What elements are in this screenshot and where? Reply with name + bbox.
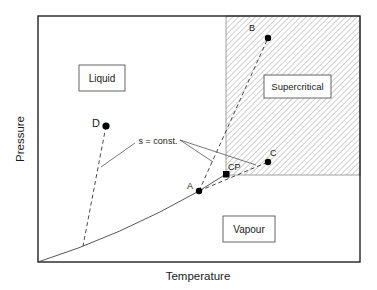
- point-A-marker: [196, 188, 202, 194]
- y-axis-label: Pressure: [14, 116, 26, 162]
- liquid-label: Liquid: [89, 73, 116, 84]
- supercritical-label-box: Supercritical: [264, 75, 331, 98]
- point-A-label: A: [187, 181, 193, 191]
- x-axis-label: Temperature: [166, 270, 231, 282]
- point-C-label: C: [270, 148, 277, 158]
- point-C-marker: [265, 159, 271, 165]
- supercritical-label: Supercritical: [271, 81, 323, 92]
- vapour-pressure-curve: [38, 174, 226, 262]
- point-B-marker: [265, 35, 271, 41]
- point-D-label: D: [92, 117, 100, 129]
- leader-line-D: [101, 143, 135, 167]
- point-D-marker: [102, 122, 109, 129]
- vapour-label-box: Vapour: [223, 216, 275, 242]
- vapour-label: Vapour: [233, 224, 265, 235]
- isentrope-label: s = const.: [139, 136, 178, 146]
- phase-diagram: Liquid Supercritical Vapour s = const. A…: [0, 0, 377, 290]
- liquid-label-box: Liquid: [79, 65, 125, 91]
- isentrope-D: [83, 126, 106, 246]
- point-B-label: B: [249, 23, 255, 33]
- critical-point-label: CP: [228, 162, 241, 172]
- leader-line-AB: [180, 140, 213, 162]
